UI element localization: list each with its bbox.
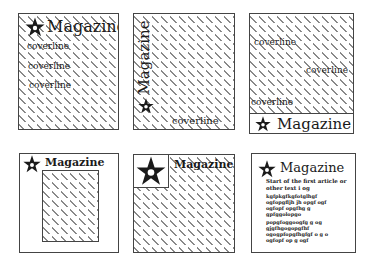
coverline: coverline [29, 81, 71, 90]
star-icon [23, 155, 41, 173]
star-icon [25, 17, 45, 37]
layout-4: Magazine [19, 153, 119, 253]
masthead: Magazine [280, 161, 344, 174]
coverline: coverline [28, 62, 70, 71]
coverline: coverline [27, 42, 69, 51]
coverline: coverline [254, 38, 296, 47]
logo-box [134, 155, 169, 188]
star-icon [255, 116, 271, 132]
coverline: coverline [306, 66, 348, 75]
masthead: Magazine [45, 157, 105, 168]
coverline: coverline [251, 98, 293, 107]
star-icon [138, 98, 154, 114]
layout-6: Magazine Start of the first article or o… [251, 153, 356, 253]
masthead-vertical: Magazine [137, 25, 152, 95]
masthead-strip: Magazine [250, 113, 353, 134]
masthead: Magazine [277, 117, 351, 132]
layout-5: Magazine [133, 154, 235, 253]
article-body: kgfpkgfkgfotglhgf ogfopgfljh jh opgf ogf… [266, 193, 351, 243]
article-intro: Start of the first article or other text… [266, 178, 348, 192]
layout-3: coverline coverline coverline Magazine [249, 13, 354, 134]
article-line: ogfopf op g ogf [266, 237, 351, 243]
star-icon [136, 156, 166, 186]
article-line: gpfggolopgo [266, 211, 351, 217]
masthead: Magazine [174, 159, 234, 170]
masthead: Magazine [47, 19, 119, 35]
coverline: coverline [172, 116, 219, 126]
layout-2: Magazine coverline [133, 13, 235, 130]
star-icon [258, 160, 276, 178]
layout-1: Magazine coverline coverline coverline [18, 13, 119, 130]
image-placeholder [42, 170, 99, 242]
